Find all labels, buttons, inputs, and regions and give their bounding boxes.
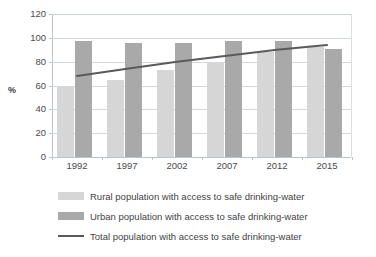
x-tick-label: 1997 <box>102 160 152 171</box>
legend-item-urban[interactable]: Urban population with access to safe dri… <box>58 206 368 226</box>
chart-legend: Rural population with access to safe dri… <box>58 186 368 246</box>
y-tick-label: 100 <box>8 33 46 43</box>
x-tick-label: 2007 <box>202 160 252 171</box>
legend-item-total[interactable]: Total population with access to safe dri… <box>58 226 368 246</box>
x-tick-mark <box>102 157 103 160</box>
x-tick-label: 2015 <box>302 160 352 171</box>
chart-container: % 020406080100120 1992199720022007201220… <box>0 0 376 257</box>
urban-swatch-icon <box>58 212 84 220</box>
x-tick-label: 2002 <box>152 160 202 171</box>
x-tick-mark <box>152 157 153 160</box>
line-swatch-icon <box>58 235 84 237</box>
x-tick-label: 1992 <box>52 160 102 171</box>
legend-label-urban: Urban population with access to safe dri… <box>90 211 308 222</box>
x-tick-mark <box>302 157 303 160</box>
rural-swatch-icon <box>58 192 84 200</box>
y-tick-label: 80 <box>8 57 46 67</box>
x-tick-mark <box>202 157 203 160</box>
total-population-line-series <box>52 14 352 157</box>
x-tick-mark <box>252 157 253 160</box>
y-tick-label: 0 <box>8 152 46 162</box>
x-tick-label: 2012 <box>252 160 302 171</box>
x-tick-mark <box>352 157 353 160</box>
legend-label-rural: Rural population with access to safe dri… <box>90 191 304 202</box>
y-tick-label: 40 <box>8 104 46 114</box>
x-tick-mark <box>52 157 53 160</box>
y-tick-label: 120 <box>8 9 46 19</box>
legend-item-rural[interactable]: Rural population with access to safe dri… <box>58 186 368 206</box>
x-axis-ticks: 199219972002200720122015 <box>52 160 352 176</box>
y-tick-label: 20 <box>8 128 46 138</box>
y-axis-label: % <box>8 85 16 95</box>
legend-label-total: Total population with access to safe dri… <box>90 231 302 242</box>
